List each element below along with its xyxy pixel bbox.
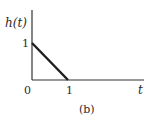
x-axis-label: t (138, 84, 143, 96)
y-axis-label: h(t) (5, 17, 27, 29)
x-tick-0: 0 (24, 85, 31, 96)
h-t-ramp-line (32, 43, 68, 80)
y-tick-1: 1 (22, 38, 29, 49)
figure-caption: (b) (79, 104, 95, 115)
x-tick-1: 1 (66, 85, 73, 96)
